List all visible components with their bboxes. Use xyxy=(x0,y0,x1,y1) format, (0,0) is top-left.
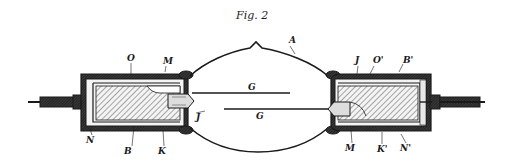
left-lead-wire xyxy=(28,95,83,109)
label-K: K xyxy=(158,147,166,156)
patent-figure: Fig. 2 O M A J O' B' G G J N B K M K' N' xyxy=(0,0,509,166)
label-B: B xyxy=(124,147,132,156)
right-lead-wire xyxy=(420,95,485,109)
figure-title: Fig. 2 xyxy=(236,10,268,21)
label-N-prime: N' xyxy=(400,144,411,153)
label-M-top: M xyxy=(163,57,173,66)
label-A: A xyxy=(289,36,296,45)
label-M-bottom: M xyxy=(345,144,355,153)
label-G-upper: G xyxy=(248,83,256,92)
label-O: O xyxy=(127,54,135,63)
label-B-prime: B' xyxy=(403,56,413,65)
label-K-prime: K' xyxy=(377,145,388,154)
right-electrode-housing xyxy=(326,71,431,134)
glass-bulb xyxy=(190,42,328,152)
label-G-lower: G xyxy=(256,112,264,121)
label-O-prime: O' xyxy=(373,56,384,65)
left-electrode-housing xyxy=(81,71,194,134)
label-J-top: J xyxy=(355,56,359,65)
label-N: N xyxy=(86,136,94,145)
label-J-mid: J xyxy=(196,113,200,122)
